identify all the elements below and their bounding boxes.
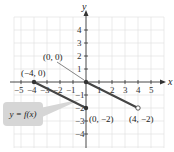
label-0-neg2: (0, −2) xyxy=(89,114,114,124)
label-neg4-0: (−4, 0) xyxy=(21,68,46,78)
point-4-neg2-open xyxy=(136,106,140,110)
svg-text:1: 1 xyxy=(77,64,82,74)
point-0-neg2 xyxy=(84,106,88,110)
x-axis-arrow-icon xyxy=(160,80,166,85)
svg-text:4: 4 xyxy=(77,25,82,35)
function-callout: y = f(x) xyxy=(3,102,43,126)
svg-text:−3: −3 xyxy=(75,116,85,126)
svg-text:3: 3 xyxy=(77,38,82,48)
svg-text:−4: −4 xyxy=(27,85,37,95)
point-neg4-0 xyxy=(32,80,36,84)
svg-text:−1: −1 xyxy=(75,90,85,100)
label-0-0: (0, 0) xyxy=(43,52,63,62)
svg-text:−5: −5 xyxy=(14,85,24,95)
label-4-neg2: (4, −2) xyxy=(129,114,154,124)
svg-text:−4: −4 xyxy=(75,129,85,139)
svg-text:2: 2 xyxy=(77,51,82,61)
svg-text:5: 5 xyxy=(149,85,154,95)
svg-text:4: 4 xyxy=(136,85,141,95)
y-axis-label: y xyxy=(81,1,87,12)
point-0-0 xyxy=(84,80,88,84)
graph: x y −5 −4 −3 −2 −1 1 2 3 4 5 4 3 2 1 −1 … xyxy=(0,0,174,152)
x-axis-label: x xyxy=(167,76,173,87)
svg-text:3: 3 xyxy=(123,85,128,95)
